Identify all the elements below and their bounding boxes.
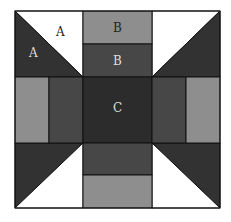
right-light-rect <box>186 77 220 143</box>
left-light-rect <box>15 77 49 143</box>
label-c: C <box>113 101 122 115</box>
label-a-white: A <box>55 25 65 39</box>
left-mid-rect <box>49 77 83 143</box>
quilt-block-diagram: A A B B C <box>0 0 231 222</box>
right-mid-rect <box>152 77 186 143</box>
label-a-dark: A <box>28 46 38 60</box>
label-b-mid: B <box>113 54 122 68</box>
bottom-light-rect <box>83 175 152 208</box>
label-b-light: B <box>113 21 122 35</box>
bottom-mid-rect <box>83 143 152 175</box>
